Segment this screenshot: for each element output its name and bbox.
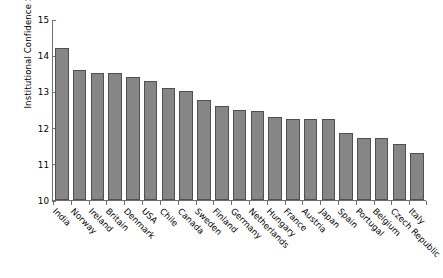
plot-area: 101112131415: [52, 20, 426, 201]
y-axis-tick: 13: [38, 87, 52, 97]
bar[interactable]: [357, 138, 371, 200]
bar-slot: [142, 20, 160, 200]
bar[interactable]: [179, 91, 193, 200]
bar[interactable]: [215, 106, 229, 200]
bar[interactable]: [73, 70, 87, 200]
bar[interactable]: [268, 117, 282, 200]
bar[interactable]: [322, 119, 336, 200]
x-axis-tick-label: Chile: [158, 206, 180, 228]
bar[interactable]: [251, 111, 265, 200]
bar[interactable]: [410, 153, 424, 200]
bar[interactable]: [393, 144, 407, 200]
y-axis-tick-label: 11: [38, 160, 52, 170]
bar[interactable]: [339, 133, 353, 200]
y-axis-tick-label: 14: [38, 51, 52, 61]
bar-slot: [355, 20, 373, 200]
y-axis-tick: 11: [38, 160, 52, 170]
bar[interactable]: [304, 119, 318, 200]
y-axis-tick: 12: [38, 124, 52, 134]
bar[interactable]: [55, 48, 69, 200]
bar-slot: [106, 20, 124, 200]
bar-slot: [195, 20, 213, 200]
bar-slot: [266, 20, 284, 200]
bar-slot: [391, 20, 409, 200]
y-axis-tick-label: 10: [38, 196, 52, 206]
bar-slot: [408, 20, 426, 200]
bar-slot: [302, 20, 320, 200]
y-axis-title: Institutional Confidence Scale: [23, 0, 33, 133]
bar-series: [53, 20, 426, 200]
bar[interactable]: [375, 138, 389, 200]
bar[interactable]: [233, 110, 247, 201]
bar-slot: [213, 20, 231, 200]
bar-slot: [177, 20, 195, 200]
bar[interactable]: [126, 77, 140, 200]
bar-slot: [124, 20, 142, 200]
bar-slot: [53, 20, 71, 200]
y-axis-tick: 14: [38, 51, 52, 61]
bar[interactable]: [162, 88, 176, 200]
y-axis-tick: 15: [38, 15, 52, 25]
bar-slot: [71, 20, 89, 200]
y-axis-tick-label: 12: [38, 124, 52, 134]
x-axis-tick-label: India: [51, 206, 73, 228]
y-axis-tick-label: 15: [38, 15, 52, 25]
y-axis-tick: 10: [38, 196, 52, 206]
x-axis-tick-labels: IndiaNorwayIrelandBritainDenmarkUSAChile…: [53, 206, 427, 276]
y-axis-tick-label: 13: [38, 87, 52, 97]
bar[interactable]: [286, 119, 300, 200]
bar-slot: [284, 20, 302, 200]
bar[interactable]: [108, 73, 122, 200]
bar[interactable]: [197, 100, 211, 200]
bar-slot: [160, 20, 178, 200]
bar-slot: [319, 20, 337, 200]
bar[interactable]: [91, 73, 105, 200]
bar-slot: [231, 20, 249, 200]
bar-slot: [337, 20, 355, 200]
bar-slot: [89, 20, 107, 200]
bar-slot: [248, 20, 266, 200]
bar-slot: [373, 20, 391, 200]
bar[interactable]: [144, 81, 158, 200]
